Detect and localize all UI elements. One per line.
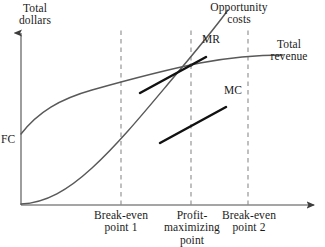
breakeven-point-2-label: Break-evenpoint 2 [209,209,289,234]
y-axis-label-line1: Total [23,2,47,14]
mr-label: MR [198,33,224,45]
opportunity-costs-label-line2: costs [227,13,251,25]
y-axis-label: Totaldollars [0,2,70,27]
y-axis-label-line2: dollars [19,14,51,26]
mc-tangent-line [160,107,226,143]
breakeven-point-1-label-line1: Break-even [94,209,148,221]
mc-label: MC [220,84,246,96]
profit-maximizing-point-label-line1: Profit- [177,209,208,221]
tangency-point-mr [190,64,193,67]
breakeven-point-1-label-line2: point 1 [105,221,138,233]
profit-maximizing-point-label-line3: point [180,234,204,246]
opportunity-costs-label: Opportunitycosts [192,1,286,26]
total-revenue-label-line1: Total [277,38,301,50]
cost-revenue-chart: Totaldollars FC Opportunitycosts Totalre… [0,0,325,247]
opportunity-costs-label-line1: Opportunity [210,1,267,13]
breakeven-point-2-label-line1: Break-even [222,209,276,221]
total-revenue-label: Totalrevenue [258,38,320,63]
total-revenue-label-line2: revenue [270,50,307,62]
breakeven-point-2-label-line2: point 2 [233,221,266,233]
fixed-cost-label: FC [1,133,21,145]
